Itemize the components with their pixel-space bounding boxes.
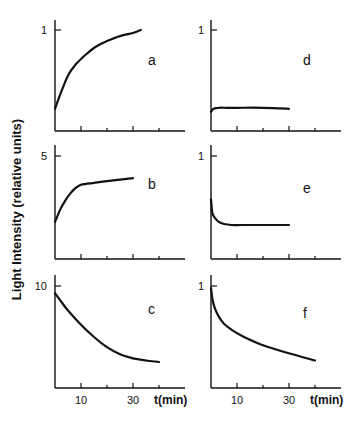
x-tick-label-c: 10 (75, 394, 87, 406)
y-tick-label-a: 1 (41, 24, 47, 36)
curve-a (55, 30, 141, 109)
x-tick-label-f: 30 (283, 394, 295, 406)
panel-label-c: c (148, 301, 155, 317)
panel-label-a: a (148, 52, 156, 68)
panel-label-f: f (303, 305, 307, 321)
curve-c (55, 293, 159, 362)
panel-label-d: d (303, 52, 311, 68)
x-tick-label-f: 10 (231, 394, 243, 406)
x-axis-label-f: t(min) (310, 393, 343, 407)
figure-canvas: 1a5b101030t(min)c1d1e11030t(min)f (0, 0, 363, 421)
panel-label-b: b (148, 176, 156, 192)
curve-f (211, 288, 315, 361)
y-tick-label-b: 5 (41, 150, 47, 162)
x-axis-label-c: t(min) (154, 393, 187, 407)
y-tick-label-f: 1 (198, 280, 204, 292)
curve-d (211, 108, 289, 112)
y-tick-label-e: 1 (198, 150, 204, 162)
x-tick-label-c: 30 (127, 394, 139, 406)
y-tick-label-c: 10 (35, 280, 47, 292)
curve-e (211, 199, 289, 225)
curve-b (55, 178, 133, 222)
panel-label-e: e (303, 180, 311, 196)
y-tick-label-d: 1 (198, 24, 204, 36)
